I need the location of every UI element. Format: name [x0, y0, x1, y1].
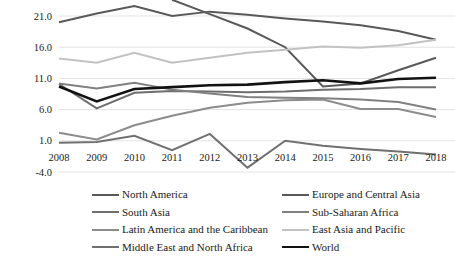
legend-line-swatch — [92, 229, 119, 231]
legend-line-swatch — [92, 211, 119, 213]
legend-line-swatch — [282, 246, 309, 248]
x-axis-tick-label: 2008 — [49, 152, 70, 163]
plot-area: -4.01.06.011.016.021.0 20082009201020112… — [0, 0, 455, 182]
legend-label: World — [312, 242, 339, 253]
series-line — [172, 0, 436, 87]
plot-svg: -4.01.06.011.016.021.0 20082009201020112… — [0, 0, 455, 182]
y-axis-tick-label: 16.0 — [34, 42, 52, 53]
x-axis-tick-label: 2017 — [388, 152, 409, 163]
legend-label: East Asia and Pacific — [312, 224, 405, 235]
line-chart: -4.01.06.011.016.021.0 20082009201020112… — [0, 0, 455, 261]
legend-row: Latin America and the CaribbeanEast Asia… — [92, 221, 455, 239]
legend-item[interactable]: Latin America and the Caribbean — [92, 224, 282, 235]
y-axis-tick-label: -4.0 — [35, 167, 52, 178]
x-axis-tick-labels: 2008200920102011201220132014201520162017… — [49, 152, 447, 163]
x-axis-tick-label: 2011 — [162, 152, 183, 163]
legend-label: North America — [122, 189, 188, 200]
x-axis-tick-label: 2015 — [312, 152, 333, 163]
x-axis-tick-label: 2012 — [199, 152, 220, 163]
legend-line-swatch — [92, 194, 119, 196]
legend-label: Middle East and North Africa — [122, 242, 253, 253]
legend-item[interactable]: Sub-Saharan Africa — [282, 207, 398, 218]
legend-label: Europe and Central Asia — [312, 189, 420, 200]
legend-label: Sub-Saharan Africa — [312, 207, 398, 218]
x-axis-tick-label: 2014 — [275, 152, 297, 163]
legend-item[interactable]: North America — [92, 189, 282, 200]
legend-label: Latin America and the Caribbean — [122, 224, 268, 235]
x-axis-tick-label: 2016 — [350, 152, 371, 163]
legend-label: South Asia — [122, 207, 170, 218]
y-axis-tick-label: 21.0 — [34, 11, 52, 22]
legend-row: South AsiaSub-Saharan Africa — [92, 204, 455, 222]
legend-row: Middle East and North AfricaWorld — [92, 239, 455, 257]
y-axis-tick-label: 6.0 — [39, 104, 52, 115]
legend-item[interactable]: Europe and Central Asia — [282, 189, 420, 200]
legend-item[interactable]: East Asia and Pacific — [282, 224, 405, 235]
legend-line-swatch — [282, 229, 309, 231]
x-axis-tick-label: 2009 — [86, 152, 107, 163]
series-line — [59, 40, 436, 63]
series-lines — [59, 0, 436, 168]
legend-row: North AmericaEurope and Central Asia — [92, 186, 455, 204]
x-axis-tick-label: 2013 — [237, 152, 258, 163]
legend-line-swatch — [282, 211, 309, 213]
legend-item[interactable]: World — [282, 242, 339, 253]
legend-line-swatch — [92, 246, 119, 248]
y-axis-tick-label: 1.0 — [39, 135, 52, 146]
legend-line-swatch — [282, 194, 309, 196]
y-axis-tick-label: 11.0 — [34, 73, 52, 84]
chart-legend: North AmericaEurope and Central AsiaSout… — [0, 186, 455, 261]
series-line — [59, 100, 436, 140]
legend-item[interactable]: Middle East and North Africa — [92, 242, 282, 253]
series-line — [59, 6, 436, 40]
x-axis-tick-label: 2010 — [124, 152, 145, 163]
legend-item[interactable]: South Asia — [92, 207, 282, 218]
x-axis-tick-label: 2018 — [426, 152, 447, 163]
